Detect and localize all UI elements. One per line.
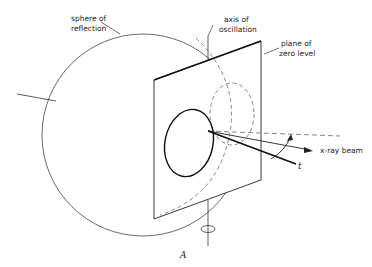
beam-arrowhead — [304, 147, 313, 153]
label-sphere-2: reflection — [71, 24, 107, 33]
label-axis-2: oscillation — [219, 25, 257, 34]
label-plane-2: zero level — [279, 49, 315, 58]
label-t: t — [298, 161, 302, 171]
figure-label: A — [179, 250, 187, 260]
label-x-ray-beam: x-ray beam — [320, 146, 363, 155]
label-axis-1: axis of — [224, 15, 249, 24]
plane-of-zero-level — [154, 41, 261, 219]
label-plane-1: plane of — [281, 39, 312, 48]
rotation-arrowhead — [287, 134, 293, 141]
plane-leader — [264, 48, 279, 54]
oscillation-diagram: sphere of reflection axis of oscillation… — [0, 0, 372, 267]
label-sphere-1: sphere of — [71, 14, 107, 23]
